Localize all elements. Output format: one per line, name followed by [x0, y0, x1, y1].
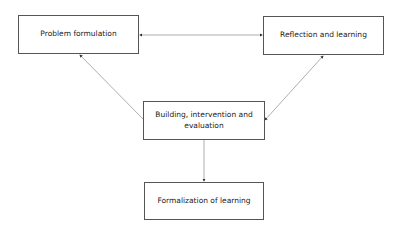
node-label: Formalization of learning	[157, 196, 250, 206]
arrow-building-reflection	[265, 56, 323, 120]
node-label: Problem formulation	[40, 29, 116, 39]
node-reflection-and-learning: Reflection and learning	[263, 16, 384, 55]
node-label: Building, intervention and evaluation	[154, 110, 254, 130]
node-building-intervention-evaluation: Building, intervention and evaluation	[143, 101, 265, 140]
node-problem-formulation: Problem formulation	[18, 15, 139, 54]
node-formalization-of-learning: Formalization of learning	[144, 182, 264, 220]
arrow-building-problem	[80, 55, 143, 119]
node-label: Reflection and learning	[280, 30, 367, 40]
